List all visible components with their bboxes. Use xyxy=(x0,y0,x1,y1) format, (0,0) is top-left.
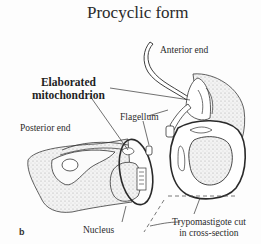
label-elaborated-mitochondrion: Elaborated mitochondrion xyxy=(32,76,105,102)
panel-letter: b xyxy=(19,228,25,237)
label-trypomastigote-cross-section: Trypomastigote cut in cross-section xyxy=(172,218,246,238)
label-nucleus: Nucleus xyxy=(83,226,114,236)
label-flagellum: Flagellum xyxy=(120,113,159,123)
label-mitochondrion-line2: mitochondrion xyxy=(32,89,105,102)
label-anterior-end: Anterior end xyxy=(160,46,208,56)
label-cross-section-line2: in cross-section xyxy=(172,229,246,239)
cross-section-right xyxy=(170,121,245,199)
figure-title: Procyclic form xyxy=(87,4,189,21)
flagellum-stub-left xyxy=(146,146,152,155)
label-mitochondrion-line1: Elaborated xyxy=(32,76,105,89)
label-cross-section-line1: Trypomastigote cut xyxy=(172,218,246,228)
diagram-canvas: Procyclic form Anterior end Elaborated m… xyxy=(0,0,261,244)
label-posterior-end: Posterior end xyxy=(20,124,70,134)
